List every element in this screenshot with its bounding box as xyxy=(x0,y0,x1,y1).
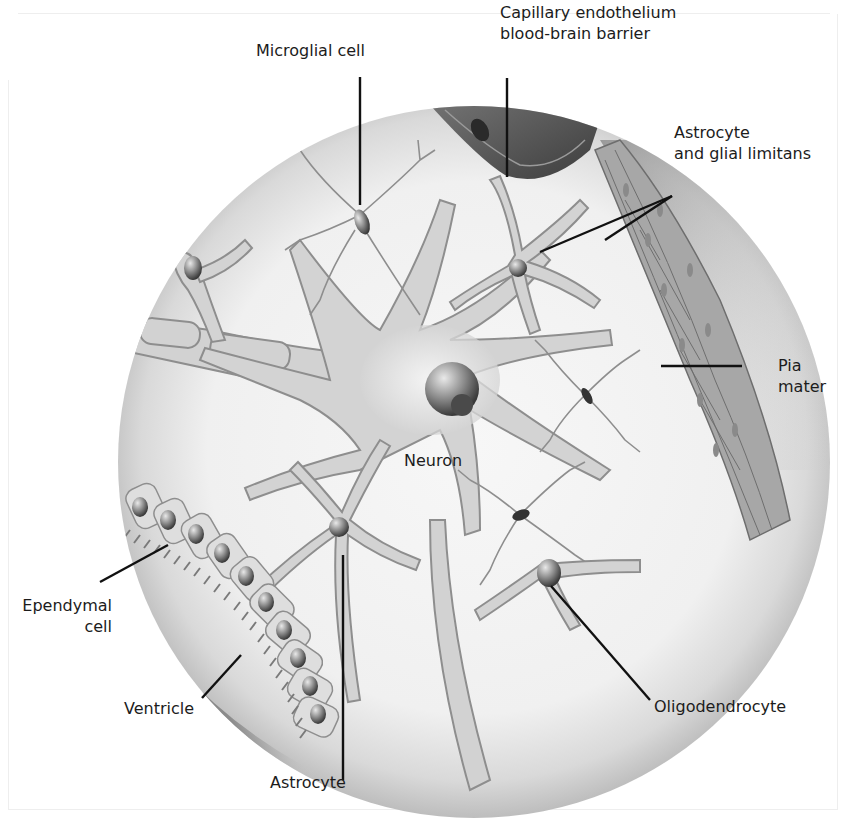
label-ependymal-line1: Ependymal xyxy=(20,595,112,616)
label-ventricle: Ventricle xyxy=(124,698,194,719)
label-pia-line1: Pia xyxy=(778,355,826,376)
label-capillary-line1: Capillary endothelium xyxy=(500,2,676,23)
label-pia-line2: mater xyxy=(778,376,826,397)
oligodendrocyte-nucleus xyxy=(537,559,561,587)
label-astrocyte-glial-limitans: Astrocyte and glial limitans xyxy=(674,122,811,164)
cns-cell-diagram: Microglial cell Capillary endothelium bl… xyxy=(0,0,848,824)
label-astro-glial-line2: and glial limitans xyxy=(674,143,811,164)
label-capillary-line2: blood-brain barrier xyxy=(500,23,676,44)
label-oligodendrocyte: Oligodendrocyte xyxy=(654,696,786,717)
label-astrocyte: Astrocyte xyxy=(270,772,346,793)
label-ependymal-line2: cell xyxy=(20,616,112,637)
label-capillary-endothelium: Capillary endothelium blood-brain barrie… xyxy=(500,2,676,44)
label-astro-glial-line1: Astrocyte xyxy=(674,122,811,143)
label-pia-mater: Pia mater xyxy=(778,355,826,397)
label-microglial-cell: Microglial cell xyxy=(256,40,365,61)
label-ependymal-cell: Ependymal cell xyxy=(20,595,112,637)
label-neuron: Neuron xyxy=(404,450,462,471)
